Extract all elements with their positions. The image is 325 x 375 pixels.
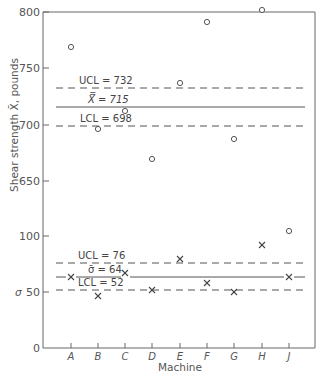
xtick-H: H bbox=[258, 351, 266, 362]
xtick-A: A bbox=[67, 351, 75, 362]
xtick-C: C bbox=[122, 351, 129, 362]
ytick-650: 650 bbox=[19, 175, 40, 188]
xbar-point-J bbox=[286, 228, 291, 233]
ytick-100: 100 bbox=[19, 230, 40, 243]
ucl-upper-label: UCL = 732 bbox=[79, 75, 133, 86]
xtick-B: B bbox=[95, 351, 102, 362]
lcl-lower-label: LCL = 52 bbox=[78, 277, 124, 288]
ytick-800: 800 bbox=[19, 6, 40, 19]
ytick-50: 50 bbox=[26, 286, 40, 299]
xtick-D: D bbox=[148, 351, 156, 362]
center-upper-label: X̿ = 715 bbox=[87, 92, 129, 105]
xbar-point-E bbox=[177, 80, 182, 85]
sigma-point-H bbox=[259, 242, 265, 248]
sigma-point-F bbox=[204, 280, 210, 286]
sigma-point-A bbox=[68, 274, 74, 280]
ytick-0: 0 bbox=[33, 342, 40, 355]
center-lower-label: σ̄ = 64 bbox=[88, 264, 122, 275]
x-axis-title: Machine bbox=[158, 361, 202, 373]
ytick-750: 750 bbox=[19, 62, 40, 75]
y-axis-title-lower: σ bbox=[15, 286, 22, 298]
y-ticks bbox=[43, 12, 49, 292]
xbar-point-A bbox=[68, 44, 73, 49]
xbar-point-D bbox=[149, 156, 154, 161]
sigma-point-J bbox=[286, 274, 292, 280]
sigma-point-C bbox=[122, 270, 128, 276]
xbar-point-H bbox=[259, 7, 264, 12]
xbar-point-F bbox=[204, 19, 209, 24]
xtick-G: G bbox=[230, 351, 238, 362]
sigma-point-G bbox=[231, 289, 237, 295]
plot-frame bbox=[43, 12, 315, 348]
sigma-point-E bbox=[177, 256, 183, 262]
xbar-point-G bbox=[231, 136, 236, 141]
x-ticks bbox=[71, 343, 289, 348]
xtick-F: F bbox=[204, 351, 210, 362]
xbar-point-C bbox=[122, 108, 127, 113]
ytick-700: 700 bbox=[19, 119, 40, 132]
y-axis-title-upper: Shear strength X̄, pounds bbox=[8, 58, 20, 192]
ucl-lower-label: UCL = 76 bbox=[78, 250, 125, 261]
y-tick-labels: 800 750 700 650 100 50 0 bbox=[19, 6, 40, 355]
sigma-point-B bbox=[95, 293, 101, 299]
xbar-point-B bbox=[95, 126, 100, 131]
xtick-J: J bbox=[286, 351, 291, 362]
control-chart: 800 750 700 650 100 50 0 Shear strength … bbox=[0, 0, 325, 375]
lcl-upper-label: LCL = 698 bbox=[80, 113, 132, 124]
